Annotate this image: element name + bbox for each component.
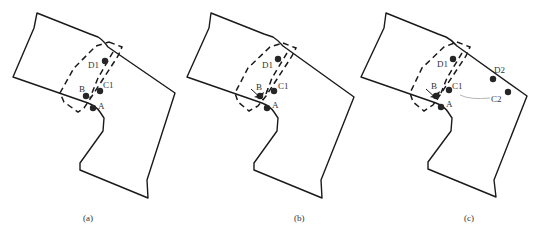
transfer-arrow bbox=[460, 95, 490, 99]
label-a: A bbox=[446, 99, 453, 109]
body-outline bbox=[361, 13, 527, 197]
caption-a: (a) bbox=[83, 213, 93, 223]
label-b: B bbox=[431, 81, 437, 91]
panel-c: D1 B C1 A D2 C2 (c) bbox=[361, 13, 527, 223]
point-c2 bbox=[505, 89, 511, 95]
panel-a: D1 B C1 A (a) bbox=[13, 13, 175, 223]
label-b: B bbox=[256, 82, 262, 92]
hinge-region-dashed bbox=[410, 42, 470, 111]
label-a: A bbox=[272, 100, 279, 110]
label-d2: D2 bbox=[494, 65, 505, 75]
point-d2 bbox=[490, 76, 496, 82]
label-d1: D1 bbox=[88, 60, 99, 70]
point-a bbox=[264, 105, 270, 111]
point-d1 bbox=[275, 56, 281, 62]
label-a: A bbox=[98, 101, 105, 111]
point-a bbox=[438, 104, 444, 110]
label-c1: C1 bbox=[103, 80, 114, 90]
label-d1: D1 bbox=[437, 59, 448, 69]
point-d1 bbox=[450, 56, 456, 62]
figure-canvas: D1 B C1 A (a) D1 B C1 A (b) D1 bbox=[0, 0, 536, 236]
label-b: B bbox=[79, 84, 85, 94]
point-d1 bbox=[102, 58, 108, 64]
label-c1: C1 bbox=[278, 81, 289, 91]
label-c2: C2 bbox=[491, 94, 502, 104]
label-d1: D1 bbox=[262, 60, 273, 70]
panel-b: D1 B C1 A (b) bbox=[187, 13, 354, 223]
caption-c: (c) bbox=[464, 213, 474, 223]
point-c1 bbox=[271, 88, 277, 94]
caption-b: (b) bbox=[294, 213, 305, 223]
label-c1: C1 bbox=[452, 81, 463, 91]
point-a bbox=[90, 105, 96, 111]
body-outline bbox=[187, 13, 354, 198]
